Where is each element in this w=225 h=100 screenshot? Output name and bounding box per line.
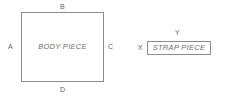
diagram-canvas: BODY PIECE A B C D STRAP PIECE X Y	[0, 0, 225, 100]
body-piece-edge-label-d: D	[60, 85, 65, 95]
body-piece-edge-label-b: B	[60, 2, 65, 12]
strap-piece-label: STRAP PIECE	[147, 41, 211, 55]
body-piece-label: BODY PIECE	[21, 40, 104, 54]
body-piece-edge-label-a: A	[8, 42, 13, 52]
body-piece-edge-label-c: C	[108, 42, 113, 52]
strap-piece-edge-label-x: X	[138, 43, 143, 53]
strap-piece-edge-label-y: Y	[175, 28, 180, 38]
